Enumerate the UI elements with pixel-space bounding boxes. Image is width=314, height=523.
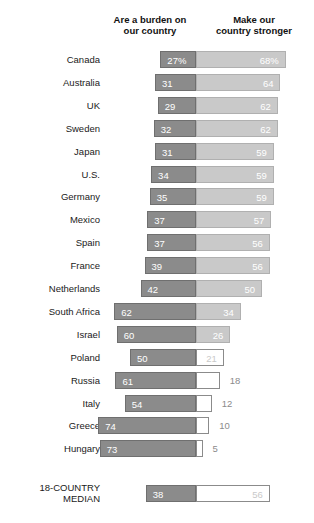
country-russia-stronger-value: 18 (230, 372, 241, 389)
country-japan-label: Japan (0, 146, 100, 157)
country-france-burden-bar: 39 (145, 257, 196, 274)
country-russia-burden-value: 61 (122, 373, 133, 390)
country-uk-label: UK (0, 100, 100, 111)
country-canada-label: Canada (0, 54, 100, 65)
country-u-s-stronger-bar: 59 (196, 166, 274, 183)
country-israel-stronger-value: 26 (213, 327, 224, 344)
country-russia-stronger-bar (196, 372, 220, 389)
country-greece-label: Greece (0, 420, 100, 431)
chart-row: Russia6118 (0, 372, 314, 389)
median-stronger-value: 56 (252, 486, 263, 503)
country-spain-stronger-bar: 56 (196, 234, 270, 251)
country-spain-label: Spain (0, 237, 100, 248)
country-greece-burden-value: 74 (105, 418, 116, 435)
country-israel-stronger-bar: 26 (196, 326, 230, 343)
column-header-stronger: Make our country stronger (198, 14, 310, 36)
country-israel-label: Israel (0, 329, 100, 340)
country-poland-burden-bar: 50 (130, 349, 196, 366)
country-poland-stronger-value: 21 (206, 350, 217, 367)
country-italy-burden-bar: 54 (125, 395, 196, 412)
country-sweden-burden-bar: 32 (154, 120, 196, 137)
country-hungary-stronger-value: 5 (213, 440, 218, 457)
country-germany-burden-bar: 35 (150, 188, 196, 205)
country-u-s-burden-value: 34 (158, 167, 169, 184)
country-greece-stronger-value: 10 (219, 417, 230, 434)
country-australia-label: Australia (0, 77, 100, 88)
country-sweden-stronger-value: 62 (260, 121, 271, 138)
country-japan-burden-bar: 31 (155, 143, 196, 160)
country-hungary-stronger-bar (196, 440, 203, 457)
column-header-burden: Are a burden on our country (104, 14, 196, 36)
country-poland-stronger-bar: 21 (196, 349, 224, 366)
country-netherlands-stronger-bar: 50 (196, 280, 262, 297)
country-greece-stronger-bar (196, 417, 209, 434)
country-germany-label: Germany (0, 191, 100, 202)
country-japan-stronger-bar: 59 (196, 143, 274, 160)
country-netherlands-burden-value: 42 (148, 281, 159, 298)
country-sweden-label: Sweden (0, 123, 100, 134)
chart-row: Mexico3757 (0, 211, 314, 228)
country-japan-burden-value: 31 (162, 144, 173, 161)
country-italy-label: Italy (0, 398, 100, 409)
chart-row: Hungary735 (0, 440, 314, 457)
diverging-bar-chart: Are a burden on our country Make our cou… (0, 0, 314, 523)
country-mexico-label: Mexico (0, 214, 100, 225)
country-mexico-burden-bar: 37 (147, 211, 196, 228)
median-burden-bar: 38 (146, 485, 196, 502)
country-uk-stronger-bar: 62 (196, 97, 278, 114)
country-canada-burden-bar: 27% (160, 51, 196, 68)
country-south-africa-burden-bar: 62 (114, 303, 196, 320)
country-uk-stronger-value: 62 (260, 98, 271, 115)
country-france-label: France (0, 260, 100, 271)
country-australia-burden-bar: 31 (155, 74, 196, 91)
country-netherlands-burden-bar: 42 (141, 280, 196, 297)
country-france-stronger-value: 56 (252, 258, 263, 275)
country-u-s-stronger-value: 59 (256, 167, 267, 184)
chart-row: Spain3756 (0, 234, 314, 251)
country-south-africa-stronger-value: 34 (223, 304, 234, 321)
median-stronger-bar: 56 (196, 485, 270, 502)
country-u-s-burden-bar: 34 (151, 166, 196, 183)
chart-row: UK2962 (0, 97, 314, 114)
country-italy-stronger-bar (196, 395, 212, 412)
country-sweden-stronger-bar: 62 (196, 120, 278, 137)
chart-row: Israel6026 (0, 326, 314, 343)
country-netherlands-stronger-value: 50 (244, 281, 255, 298)
country-uk-burden-bar: 29 (158, 97, 196, 114)
country-israel-burden-value: 60 (124, 327, 135, 344)
country-greece-burden-bar: 74 (98, 417, 196, 434)
median-label: 18-COUNTRY MEDIAN (0, 482, 100, 504)
chart-row: U.S.3459 (0, 166, 314, 183)
country-mexico-stronger-value: 57 (254, 212, 265, 229)
country-canada-stronger-bar: 68% (196, 51, 286, 68)
country-south-africa-label: South Africa (0, 306, 100, 317)
country-south-africa-stronger-bar: 34 (196, 303, 241, 320)
country-france-stronger-bar: 56 (196, 257, 270, 274)
country-australia-stronger-bar: 64 (196, 74, 280, 91)
country-canada-stronger-value: 68% (260, 52, 279, 69)
chart-row: France3956 (0, 257, 314, 274)
country-mexico-stronger-bar: 57 (196, 211, 271, 228)
country-mexico-burden-value: 37 (154, 212, 165, 229)
country-spain-burden-bar: 37 (147, 234, 196, 251)
country-israel-burden-bar: 60 (117, 326, 196, 343)
chart-row: Sweden3262 (0, 120, 314, 137)
chart-row: Germany3559 (0, 188, 314, 205)
country-poland-burden-value: 50 (137, 350, 148, 367)
country-hungary-burden-value: 73 (107, 441, 118, 458)
country-australia-burden-value: 31 (162, 75, 173, 92)
chart-row: South Africa6234 (0, 303, 314, 320)
country-italy-burden-value: 54 (132, 396, 143, 413)
country-hungary-burden-bar: 73 (100, 440, 196, 457)
country-uk-burden-value: 29 (165, 98, 176, 115)
country-u-s-label: U.S. (0, 169, 100, 180)
median-burden-value: 38 (153, 486, 164, 503)
country-spain-stronger-value: 56 (252, 235, 263, 252)
country-russia-label: Russia (0, 375, 100, 386)
chart-row: Canada27%68% (0, 51, 314, 68)
country-sweden-burden-value: 32 (161, 121, 172, 138)
country-germany-stronger-value: 59 (256, 189, 267, 206)
country-japan-stronger-value: 59 (256, 144, 267, 161)
country-australia-stronger-value: 64 (263, 75, 274, 92)
country-poland-label: Poland (0, 352, 100, 363)
